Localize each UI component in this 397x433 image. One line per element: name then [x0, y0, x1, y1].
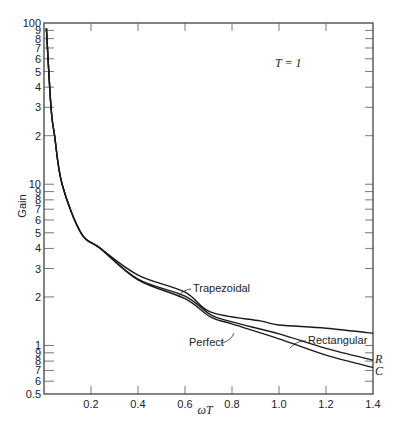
label-perfect: Perfect [189, 336, 224, 348]
y-tick-label: 5 [35, 66, 41, 78]
y-tick-label: 2 [35, 130, 41, 142]
end-label-c: C [375, 364, 384, 378]
param-annotation: T = 1 [275, 56, 302, 70]
y-tick-label: 4 [35, 81, 41, 93]
y-tick-label: 6 [35, 53, 41, 65]
series-line-perfect [46, 28, 373, 367]
y-tick-label: 4 [35, 242, 41, 254]
x-tick-label: 0.6 [177, 398, 192, 410]
x-axis-title: ωT [197, 403, 213, 417]
label-trapezoidal: Trapezoidal [193, 282, 250, 294]
axis-ticks: 0.20.40.60.81.01.21.41009876543210987654… [23, 17, 381, 410]
label-rectangular: Rectangular [308, 334, 368, 346]
y-axis-title: Gain [16, 194, 28, 217]
curves [46, 28, 373, 367]
x-tick-label: 0.4 [130, 398, 145, 410]
x-tick-label: 1.0 [271, 398, 286, 410]
y-tick-label: 3 [35, 101, 41, 113]
y-tick-label: 2 [35, 291, 41, 303]
x-tick-label: 1.4 [365, 398, 380, 410]
y-tick-label: 3 [35, 263, 41, 275]
gain-chart: 0.20.40.60.81.01.21.41009876543210987654… [0, 0, 397, 433]
series-line-rectangular [46, 28, 373, 360]
y-tick-label: 6 [35, 214, 41, 226]
x-tick-label: 0.2 [83, 398, 98, 410]
y-tick-label: 0.5 [26, 388, 41, 400]
y-tick-label: 5 [35, 227, 41, 239]
y-tick-label: 6 [35, 375, 41, 387]
x-tick-label: 0.8 [224, 398, 239, 410]
x-tick-label: 1.2 [318, 398, 333, 410]
